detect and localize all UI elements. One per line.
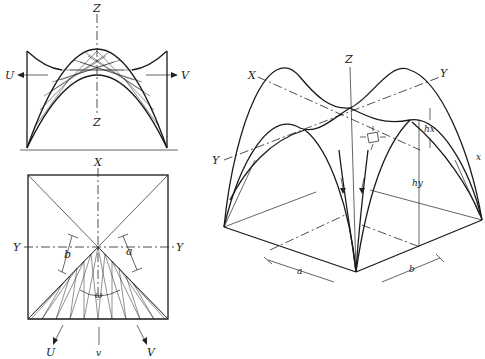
label-x-right: x xyxy=(476,152,481,162)
label-a: a xyxy=(126,245,133,258)
label-y-left: Y xyxy=(212,154,221,167)
label-u: U xyxy=(5,69,15,82)
label-z-bottom: Z xyxy=(92,116,101,129)
arrow-v-icon xyxy=(171,72,178,78)
label-hx: hx xyxy=(424,124,435,134)
label-b: b xyxy=(409,264,415,274)
label-v: V xyxy=(181,69,190,82)
label-b: b xyxy=(64,248,71,261)
label-v-plan: V xyxy=(147,346,156,359)
diagram-canvas: Z Z U V X Y Y b xyxy=(0,0,485,359)
label-y-right: Y xyxy=(176,241,185,254)
label-x: X xyxy=(93,156,103,169)
label-x-top: X xyxy=(247,69,257,82)
plan-view: X Y Y b a ω U v V xyxy=(13,156,185,359)
label-hy: hy xyxy=(412,178,424,188)
elevation-view: Z Z U V xyxy=(5,2,190,150)
arrow-u-plan-icon xyxy=(53,337,58,345)
flow-arrow-icon xyxy=(359,188,365,194)
label-y-left: Y xyxy=(13,241,22,254)
axonometric-view: Z X Y Y x xyxy=(212,53,482,282)
label-z-top: Z xyxy=(92,2,101,15)
label-a: a xyxy=(297,266,302,276)
label-y-top: Y xyxy=(440,67,449,80)
label-z: Z xyxy=(344,53,353,66)
label-omega: ω xyxy=(95,290,103,300)
arrow-v-plan-icon xyxy=(142,337,147,345)
stress-element-icon xyxy=(360,126,386,150)
label-v-small: v xyxy=(96,348,101,358)
label-u-plan: U xyxy=(46,346,56,359)
arrow-u-icon xyxy=(17,72,24,78)
